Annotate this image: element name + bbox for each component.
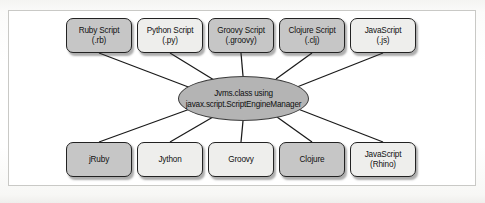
node-label-line1: Clojure Script [288,26,335,36]
node-clojure-script[interactable]: Clojure Script (.clj) [279,18,345,53]
diagram-figure: Ruby Script (.rb) Python Script (.py) Gr… [0,0,485,203]
node-label-line2: (.py) [162,36,178,46]
node-label-line2: (.groovy) [226,36,257,46]
edge-ruby-script [99,53,191,88]
node-clojure[interactable]: Clojure [279,142,345,177]
edge-groovy-script [241,53,243,76]
node-label-line2: (.js) [377,36,390,46]
node-label-line1: Clojure [300,155,325,165]
node-groovy[interactable]: Groovy [208,142,274,177]
node-javascript-js[interactable]: JavaScript (.js) [350,18,416,53]
hub-script-engine-manager[interactable]: Jvms.class using javax.script.ScriptEngi… [178,76,309,121]
node-label-line2: (Rhino) [370,160,396,170]
edge-javascript-rhino [298,109,383,142]
node-label-line1: Jython [158,155,181,165]
node-label-line1: Ruby Script [79,26,120,36]
node-python-script[interactable]: Python Script (.py) [137,18,203,53]
node-jruby[interactable]: jRuby [66,142,132,177]
node-groovy-script[interactable]: Groovy Script (.groovy) [208,18,274,53]
edge-clojure [277,117,312,142]
edge-clojure-script [276,53,312,79]
edge-groovy [241,121,243,142]
node-label-line1: Groovy Script [217,26,265,36]
node-javascript-rhino[interactable]: JavaScript (Rhino) [350,142,416,177]
edge-jython [170,117,213,142]
node-jython[interactable]: Jython [137,142,203,177]
node-label-line1: Groovy [228,155,254,165]
edge-jruby [99,109,190,142]
hub-label-line1: Jvms.class using [214,88,273,99]
node-label-line1: JavaScript [365,26,402,36]
edge-javascript-js [297,53,383,87]
hub-label-line2: javax.script.ScriptEngineManager [186,99,302,110]
node-label-line2: (.rb) [92,36,106,46]
node-ruby-script[interactable]: Ruby Script (.rb) [66,18,132,53]
node-label-line1: Python Script [147,26,194,36]
node-label-line2: (.clj) [305,36,320,46]
node-label-line1: jRuby [89,155,109,165]
edge-python-script [170,53,214,80]
node-label-line1: JavaScript [365,150,402,160]
